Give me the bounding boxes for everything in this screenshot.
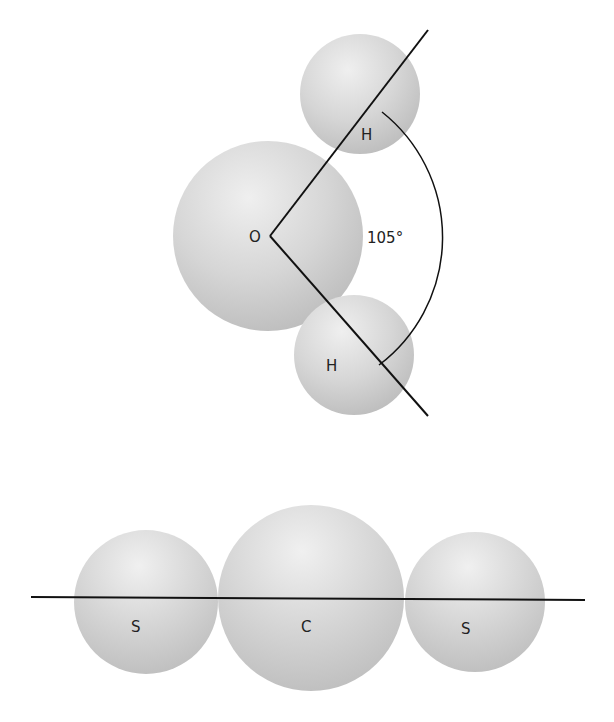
atom-label-h-lower: H	[326, 357, 337, 375]
sulfur-atom-sphere-left	[74, 530, 218, 674]
water-molecule: O H H 105°	[173, 30, 443, 416]
atom-label-o: O	[249, 228, 261, 246]
atom-label-s-right: S	[461, 620, 471, 638]
atom-label-c: C	[301, 618, 311, 636]
carbon-disulfide-molecule: S C S	[31, 505, 585, 691]
sulfur-atom-sphere-right	[405, 532, 545, 672]
bond-angle-label: 105°	[367, 229, 403, 247]
molecular-geometry-diagram: O H H 105° S C S	[0, 0, 614, 722]
hydrogen-atom-sphere-upper	[300, 34, 420, 154]
atom-label-s-left: S	[131, 618, 141, 636]
hydrogen-atom-sphere-lower	[294, 295, 414, 415]
atom-label-h-upper: H	[361, 126, 372, 144]
